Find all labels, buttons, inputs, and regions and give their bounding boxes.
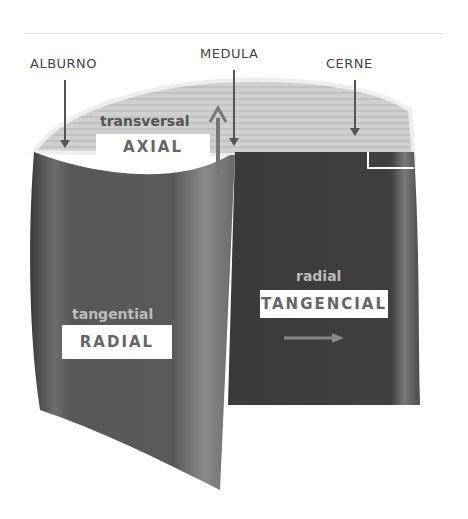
label-radial: RADIAL [62, 325, 172, 359]
alburno-arrow-icon [64, 80, 66, 146]
label-transversal: transversal [100, 113, 189, 129]
label-tangencial: TANGENCIAL [260, 290, 388, 318]
label-axial: AXIAL [96, 134, 210, 160]
medula-arrow-icon [233, 70, 235, 144]
label-alburno: ALBURNO [30, 56, 97, 71]
label-medula: MEDULA [200, 46, 258, 61]
label-cerne: CERNE [326, 56, 373, 71]
label-tangential: tangential [72, 306, 153, 322]
label-radial-small: radial [296, 268, 341, 284]
cerne-arrow-icon [354, 80, 356, 134]
